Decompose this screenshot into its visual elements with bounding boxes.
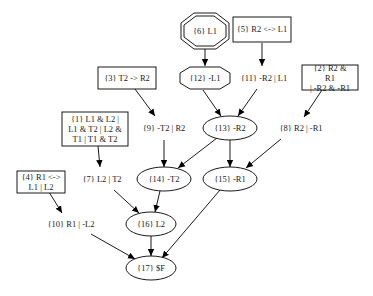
- edge-13-14: [178, 138, 217, 168]
- nodes-group: [17, 13, 358, 280]
- edge-1-7: [98, 146, 100, 167]
- node-13-label: {13} -R2: [214, 123, 246, 133]
- node-14-label: {14} -T2: [148, 174, 179, 184]
- edge-7-16: [114, 190, 139, 213]
- node-2-label: {2} R2 & R1 | -R2 & -R1: [309, 63, 352, 93]
- node-12-label: {12} -L1: [189, 73, 220, 83]
- edge-2-8: [304, 90, 322, 117]
- node-5-label: {5} R2 <-> L1: [237, 24, 288, 34]
- node-10-label: {10} R1 | -L2: [48, 219, 95, 229]
- edge-4-10: [49, 192, 62, 213]
- edge-11-13: [238, 89, 257, 116]
- node-7-label: {7} L2 | T2: [82, 174, 121, 184]
- edge-8-15: [246, 139, 281, 168]
- node-3-label: {3} T2 -> R2: [104, 73, 150, 83]
- node-1-label: {1} L1 & L2 | L1 & T2 | L2 & T1 | T1 & T…: [68, 114, 122, 144]
- node-17-label: {17} $F: [137, 263, 165, 273]
- edge-12-13: [203, 90, 221, 116]
- proof-graph-canvas: {6} L1 {5} R2 <-> L1 {3} T2 -> R2 {12} -…: [0, 0, 373, 296]
- node-11-label: {11} -R2 | L1: [241, 73, 288, 83]
- edge-10-17: [91, 234, 135, 259]
- node-8-label: {8} R2 | -R1: [279, 123, 322, 133]
- edge-14-16: [155, 191, 160, 212]
- node-15-label: {15} -R1: [214, 174, 246, 184]
- graph-svg: [0, 0, 373, 296]
- node-9-label: {9} -T2 | R2: [143, 123, 186, 133]
- node-4-label: {4} R1 <-> L1 | L2: [22, 172, 61, 192]
- edge-3-9: [135, 89, 155, 116]
- node-16-label: {16} L2: [137, 219, 165, 229]
- node-6-label: {6} L1: [193, 26, 217, 36]
